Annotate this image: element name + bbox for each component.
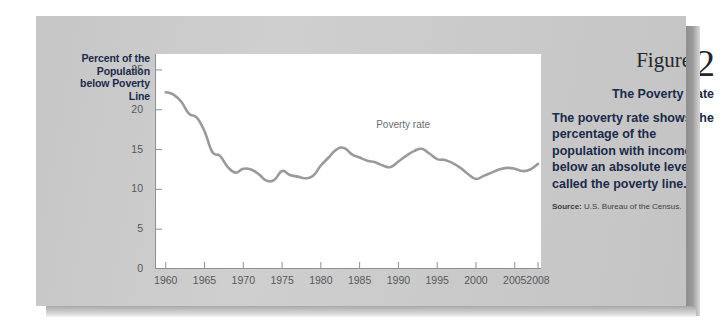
poverty-rate-line-chart [155,54,541,269]
source-label: Source: [552,202,582,211]
x-tick-label: 1990 [378,274,418,286]
x-tick-label: 1970 [223,274,263,286]
card-shadow-right [686,26,700,316]
y-tick-label: 10 [117,182,143,194]
x-tick-label: 1965 [185,274,225,286]
y-tick-label: 20 [117,103,143,115]
series-annotation-poverty-rate: Poverty rate [376,119,430,130]
x-tick-label: 1960 [146,274,186,286]
x-tick-label: 2000 [456,274,496,286]
x-tick-label: 2008 [518,274,558,286]
chart-plot-area [155,54,541,269]
card-shadow-bottom [46,306,696,317]
y-tick-label: 5 [117,222,143,234]
y-tick-label: 0 [117,262,143,274]
figure-heading-word: Figure [636,48,691,72]
y-tick-label: 15 [117,143,143,155]
y-tick-label: 25 [117,63,143,75]
x-tick-label: 1995 [417,274,457,286]
x-tick-label: 1985 [340,274,380,286]
x-tick-label: 1980 [301,274,341,286]
y-axis-title: Percent of the Population below Poverty … [74,52,150,102]
x-tick-label: 1975 [262,274,302,286]
figure-card: Percent of the Population below Poverty … [36,16,686,306]
source-text: U.S. Bureau of the Census. [584,202,681,211]
